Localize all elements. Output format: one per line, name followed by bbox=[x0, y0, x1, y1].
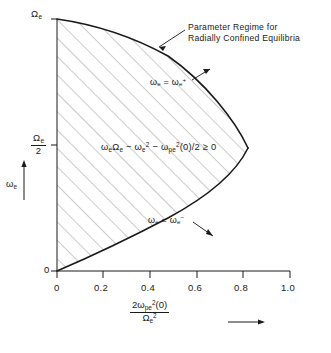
y-axis-label: ωe bbox=[6, 178, 17, 191]
y-tick-label-zero: 0 bbox=[44, 264, 50, 276]
x-axis-label: 2ωpe2(0) Ωe2 bbox=[130, 300, 169, 324]
lower-curve-label: ωe = ωe− bbox=[148, 214, 184, 226]
x-tick-label-0-6: 0.6 bbox=[188, 282, 202, 294]
regime-leader-line bbox=[159, 30, 185, 51]
x-axis-arrow bbox=[228, 319, 265, 324]
x-tick-label-1-0: 1.0 bbox=[281, 282, 295, 294]
regime-annotation-line2: Radially Confined Equilibria bbox=[188, 33, 300, 44]
x-tick-label-0-4: 0.4 bbox=[141, 282, 155, 294]
x-tick-label-0-2: 0.2 bbox=[94, 282, 108, 294]
upper-label-leader-line bbox=[192, 69, 210, 80]
x-tick-label-0-8: 0.8 bbox=[234, 282, 248, 294]
lower-label-leader-line bbox=[193, 222, 213, 236]
upper-curve-label: ωe = ωe+ bbox=[150, 76, 186, 88]
regime-annotation-line1: Parameter Regime for bbox=[188, 22, 300, 33]
x-tick-marks bbox=[57, 271, 290, 278]
regime-annotation: Parameter Regime for Radially Confined E… bbox=[188, 22, 300, 43]
inequality-annotation: ωeΩe − ωe2 − ωpe2(0)/2 ≥ 0 bbox=[101, 141, 216, 154]
y-tick-label-omega-e-over-2: Ωe 2 bbox=[31, 133, 46, 156]
y-axis-arrow bbox=[21, 160, 26, 200]
figure-root: ωe Ωe Ωe 2 0 0 0.2 0.4 0.6 0.8 1.0 2ωpe2… bbox=[0, 0, 331, 353]
x-tick-label-0: 0 bbox=[54, 282, 60, 294]
y-tick-marks bbox=[51, 19, 57, 271]
y-tick-label-omega-e: Ωe bbox=[31, 8, 42, 21]
